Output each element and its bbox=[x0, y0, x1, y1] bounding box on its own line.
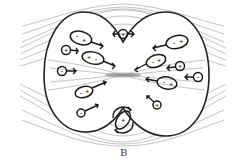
svg-text:-: - bbox=[80, 110, 82, 116]
figure-caption: B bbox=[120, 147, 127, 158]
svg-text:-: - bbox=[173, 40, 175, 46]
svg-text:-: - bbox=[95, 56, 97, 62]
svg-text:+: + bbox=[85, 88, 89, 94]
svg-text:+: + bbox=[64, 47, 68, 53]
svg-text:+: + bbox=[179, 38, 183, 44]
svg-text:+: + bbox=[82, 37, 86, 43]
svg-text:-: - bbox=[76, 33, 78, 39]
svg-text:-: - bbox=[152, 59, 154, 65]
x-point bbox=[105, 73, 141, 78]
svg-text:-: - bbox=[163, 79, 165, 85]
svg-text:+: + bbox=[155, 102, 159, 108]
svg-text:-: - bbox=[197, 74, 199, 80]
svg-text:+: + bbox=[178, 63, 182, 69]
particle-bottom-center: + bbox=[112, 107, 133, 133]
svg-text:-: - bbox=[80, 90, 82, 96]
svg-text:-: - bbox=[61, 68, 63, 74]
svg-text:+: + bbox=[157, 57, 161, 63]
field-diagram: -+ + +- - -+ - bbox=[0, 0, 247, 162]
svg-text:+: + bbox=[87, 54, 91, 60]
svg-text:+: + bbox=[121, 117, 125, 123]
svg-text:+: + bbox=[169, 81, 173, 87]
svg-text:+: + bbox=[121, 31, 125, 37]
